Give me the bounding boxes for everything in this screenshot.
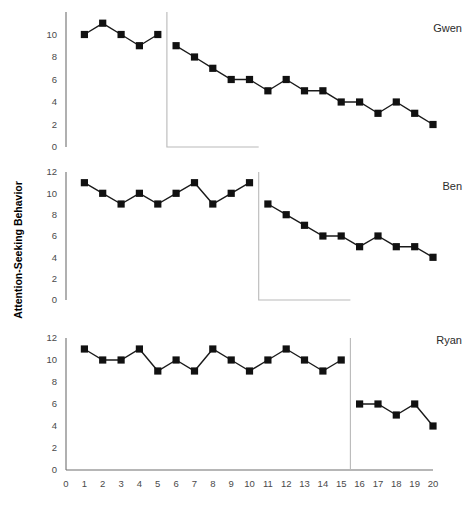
y-tick-label-ben-6: 6 xyxy=(52,230,57,241)
y-tick-label-ryan-12: 12 xyxy=(46,332,57,343)
data-point xyxy=(191,53,198,60)
data-point xyxy=(429,121,436,128)
panel-gwen xyxy=(66,12,437,147)
data-point xyxy=(154,200,161,207)
data-point xyxy=(173,356,180,363)
data-point xyxy=(393,411,400,418)
data-point xyxy=(154,367,161,374)
panel-ben xyxy=(66,172,437,300)
x-tick-label-12: 12 xyxy=(281,478,292,489)
data-point xyxy=(173,42,180,49)
data-point xyxy=(118,31,125,38)
chart-canvas: 0246810Gwen024681012Ben024681012Ryan0123… xyxy=(0,0,469,519)
x-tick-label-6: 6 xyxy=(173,478,178,489)
y-tick-label-ryan-8: 8 xyxy=(52,376,57,387)
data-point xyxy=(228,76,235,83)
x-tick-label-13: 13 xyxy=(299,478,310,489)
x-tick-label-15: 15 xyxy=(336,478,347,489)
data-point xyxy=(356,400,363,407)
data-point xyxy=(429,422,436,429)
y-tick-label-ben-4: 4 xyxy=(52,252,57,263)
data-point xyxy=(136,42,143,49)
data-point xyxy=(264,200,271,207)
data-point xyxy=(81,31,88,38)
data-point xyxy=(338,98,345,105)
data-point xyxy=(99,356,106,363)
data-point xyxy=(209,345,216,352)
x-tick-label-10: 10 xyxy=(244,478,255,489)
panel-label-ben: Ben xyxy=(442,180,462,192)
data-point xyxy=(246,76,253,83)
x-tick-label-19: 19 xyxy=(409,478,420,489)
x-tick-label-20: 20 xyxy=(428,478,439,489)
data-point xyxy=(338,232,345,239)
x-tick-label-0: 0 xyxy=(63,478,68,489)
data-point xyxy=(374,400,381,407)
x-tick-label-2: 2 xyxy=(100,478,105,489)
data-point xyxy=(264,356,271,363)
x-tick-label-8: 8 xyxy=(210,478,215,489)
data-point xyxy=(393,98,400,105)
x-tick-label-9: 9 xyxy=(229,478,234,489)
x-tick-label-1: 1 xyxy=(82,478,87,489)
x-tick-label-7: 7 xyxy=(192,478,197,489)
data-point xyxy=(99,190,106,197)
y-tick-label-ben-8: 8 xyxy=(52,209,57,220)
data-point xyxy=(191,179,198,186)
y-tick-label-gwen-4: 4 xyxy=(52,96,57,107)
data-point xyxy=(118,356,125,363)
y-tick-label-gwen-10: 10 xyxy=(46,29,57,40)
y-tick-label-ben-0: 0 xyxy=(52,294,57,305)
data-point xyxy=(411,243,418,250)
y-tick-label-gwen-6: 6 xyxy=(52,74,57,85)
data-point xyxy=(136,345,143,352)
y-axis-title: Attention-Seeking Behavior xyxy=(12,181,24,319)
y-tick-label-ben-2: 2 xyxy=(52,273,57,284)
series-line-ben-baseline xyxy=(84,183,249,204)
x-tick-label-16: 16 xyxy=(354,478,365,489)
data-point xyxy=(118,200,125,207)
data-point xyxy=(356,98,363,105)
data-point xyxy=(356,243,363,250)
panel-label-gwen: Gwen xyxy=(433,22,462,34)
data-point xyxy=(264,87,271,94)
data-point xyxy=(301,87,308,94)
data-point xyxy=(283,76,290,83)
data-point xyxy=(246,367,253,374)
y-tick-label-ryan-2: 2 xyxy=(52,442,57,453)
data-point xyxy=(136,190,143,197)
data-point xyxy=(301,222,308,229)
data-point xyxy=(228,356,235,363)
x-tick-label-17: 17 xyxy=(373,478,384,489)
data-point xyxy=(228,190,235,197)
panel-ryan xyxy=(66,338,437,470)
x-tick-label-11: 11 xyxy=(263,478,273,489)
y-tick-label-ben-10: 10 xyxy=(46,188,57,199)
data-point xyxy=(338,356,345,363)
y-tick-label-ben-12: 12 xyxy=(46,166,57,177)
data-point xyxy=(374,110,381,117)
data-point xyxy=(319,87,326,94)
y-tick-label-ryan-10: 10 xyxy=(46,354,57,365)
data-point xyxy=(246,179,253,186)
data-point xyxy=(81,179,88,186)
data-point xyxy=(209,200,216,207)
data-point xyxy=(173,190,180,197)
y-tick-label-gwen-8: 8 xyxy=(52,51,57,62)
y-tick-label-ryan-6: 6 xyxy=(52,398,57,409)
data-point xyxy=(154,31,161,38)
multiple-baseline-chart: 0246810Gwen024681012Ben024681012Ryan0123… xyxy=(0,0,469,519)
data-point xyxy=(209,65,216,72)
data-point xyxy=(319,367,326,374)
data-point xyxy=(283,211,290,218)
x-tick-label-3: 3 xyxy=(118,478,123,489)
x-tick-label-5: 5 xyxy=(155,478,160,489)
data-point xyxy=(301,356,308,363)
x-tick-label-18: 18 xyxy=(391,478,402,489)
x-tick-label-4: 4 xyxy=(137,478,142,489)
x-tick-label-14: 14 xyxy=(318,478,329,489)
data-point xyxy=(374,232,381,239)
y-tick-label-gwen-2: 2 xyxy=(52,119,57,130)
series-line-gwen-intervention xyxy=(176,46,433,125)
data-point xyxy=(319,232,326,239)
